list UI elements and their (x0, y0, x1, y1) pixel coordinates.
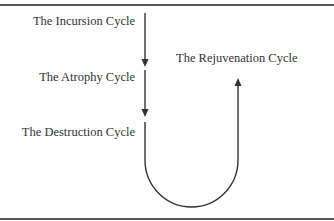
arrow-atrophy-to-destruction (142, 70, 149, 117)
cycle-diagram (0, 0, 334, 221)
u-curve-destruction-to-rejuvenation (145, 85, 238, 207)
arrow-incursion-to-atrophy (142, 13, 149, 67)
arrow-up-rejuvenation (235, 78, 242, 86)
